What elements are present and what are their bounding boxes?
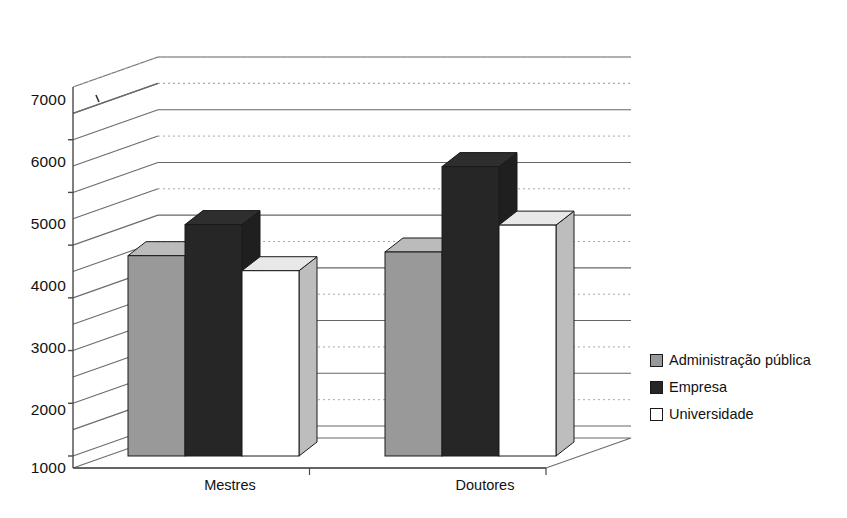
swatch-universidade-icon <box>650 408 663 421</box>
y-axis-tick-3000: 3000 <box>0 339 66 357</box>
x-axis-label-doutores: Doutores <box>390 477 580 493</box>
legend-label-administracao-publica: Administração pública <box>669 353 811 368</box>
grid-leader-7500 <box>73 83 158 113</box>
y-axis-tick-5000: 5000 <box>0 215 66 233</box>
swatch-administracao-publica-icon <box>650 354 663 367</box>
legend-label-empresa: Empresa <box>669 380 727 395</box>
bar-chart: 7000 6000 5000 4000 3000 2000 1000 Mestr… <box>0 0 847 518</box>
chart-plot-area <box>0 0 847 518</box>
y-axis-tick-6000: 6000 <box>0 153 66 171</box>
stray-mark <box>96 95 99 102</box>
legend-label-universidade: Universidade <box>669 407 754 422</box>
swatch-empresa-icon <box>650 381 663 394</box>
chart-legend: Administração pública Empresa Universida… <box>650 347 845 428</box>
grid-leader-5000 <box>73 215 158 245</box>
legend-item-universidade[interactable]: Universidade <box>650 401 845 428</box>
y-axis-tick-1000: 1000 <box>0 459 66 477</box>
grid-leader-7000 <box>73 110 158 140</box>
legend-item-administracao-publica[interactable]: Administração pública <box>650 347 845 374</box>
grid-leader-6000 <box>73 162 158 192</box>
bar-doutores-universidade[interactable] <box>499 211 574 456</box>
bar-mestres-universidade[interactable] <box>242 257 317 456</box>
y-axis-tick-7000: 7000 <box>0 91 66 109</box>
y-axis-tick-2000: 2000 <box>0 401 66 419</box>
y-axis-tick-4000: 4000 <box>0 277 66 295</box>
grid-leader-5500 <box>73 189 158 219</box>
grid-leader-6500 <box>73 136 158 166</box>
x-axis-label-mestres: Mestres <box>135 477 325 493</box>
legend-item-empresa[interactable]: Empresa <box>650 374 845 401</box>
